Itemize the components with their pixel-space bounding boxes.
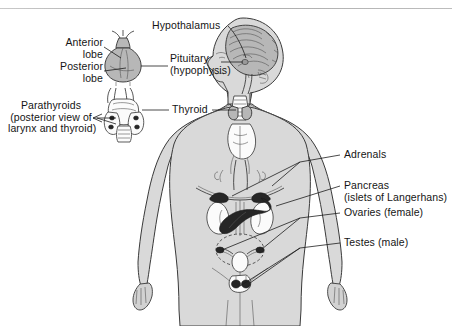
label-parathyroids: Parathyroids (posterior view of larynx a…: [8, 100, 94, 135]
label-adrenals: Adrenals: [344, 149, 414, 161]
label-pancreas: Pancreas (islets of Langerhans): [344, 180, 452, 203]
label-hypothalamus: Hypothalamus: [152, 20, 232, 32]
pituitary-inset: [105, 30, 141, 86]
label-pituitary: Pituitary (hypophysis): [170, 53, 244, 76]
label-anterior-lobe: Anterior lobe: [33, 37, 103, 60]
right-hand: [328, 283, 347, 310]
label-thyroid: Thyroid: [172, 104, 212, 116]
testis-left: [232, 280, 241, 288]
label-ovaries: Ovaries (female): [344, 207, 444, 219]
label-testes: Testes (male): [344, 237, 436, 249]
left-hand: [133, 283, 152, 310]
label-posterior-lobe: Posterior lobe: [28, 61, 103, 84]
parathyroid-inset: [104, 88, 143, 142]
